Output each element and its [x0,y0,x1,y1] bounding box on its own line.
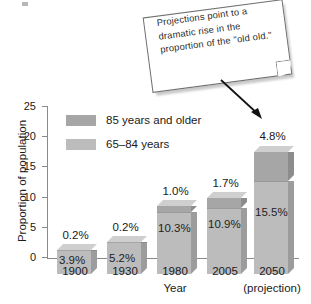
legend-label-65-84: 65–84 years [106,138,169,150]
x-axis-title: Year [155,282,195,294]
x-tick-label-2050: 2050 [252,265,292,277]
chart-figure: 25 20 15 10 5 0 Proportion of population [0,0,311,304]
legend-swatch-85-older [66,115,96,126]
x-tick-label-1980: 1980 [155,265,195,277]
x-tick-label-1930: 1930 [105,265,145,277]
x-tick-label-1900: 1900 [55,265,95,277]
callout-arrow-icon [218,76,278,128]
x-sublabel-projection: (projection) [236,282,308,294]
callout-note: Projections point to a dramatic rise in … [147,8,286,82]
callout-fold-corner [276,60,293,77]
legend-swatch-65-84 [66,139,96,150]
x-tick-label-2005: 2005 [205,265,245,277]
legend-label-85-older: 85 years and older [106,114,201,126]
